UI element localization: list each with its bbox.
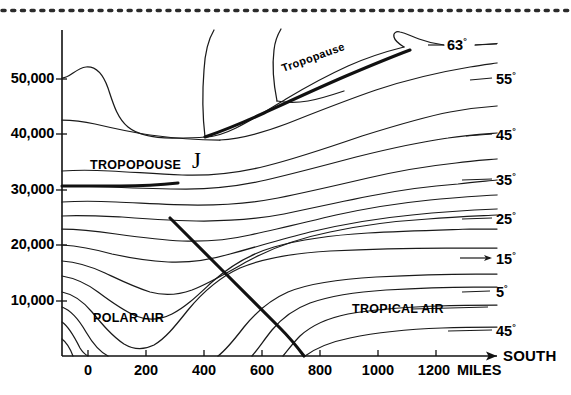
temperature-label-35: 35° xyxy=(496,171,516,188)
isotherm-unlabeled-7 xyxy=(62,339,73,356)
isotherm-5 xyxy=(62,322,88,356)
plot-area xyxy=(0,0,571,395)
temperature-label-55: 55° xyxy=(496,70,516,87)
y-tick-label-50000: 50,000 xyxy=(8,70,54,86)
y-tick-label-20000: 20,000 xyxy=(8,236,54,252)
degree-sign-45-low: ° xyxy=(512,322,516,332)
temp-5-value: 5 xyxy=(496,284,504,300)
temp-35-value: 35 xyxy=(496,172,512,188)
isotherm-63-branch-up xyxy=(203,30,214,137)
x-ticks xyxy=(88,350,436,356)
temperature-label-45-low: 45° xyxy=(496,322,516,339)
tropopause-lower-line xyxy=(62,183,178,186)
degree-sign-45: ° xyxy=(512,126,516,136)
x-tick-label-1000: 1000 xyxy=(356,362,400,378)
temp-63-value: 63 xyxy=(447,37,463,53)
leader-35 xyxy=(462,179,492,180)
leader-25 xyxy=(462,218,492,219)
degree-sign-55: ° xyxy=(512,70,516,80)
x-tick-label-200: 200 xyxy=(128,362,164,378)
isotherm-45-low xyxy=(305,327,497,356)
temp-45-low-value: 45 xyxy=(496,323,512,339)
temperature-label-15: 15° xyxy=(496,250,516,267)
degree-sign-63: ° xyxy=(463,36,467,46)
tropopause-lower-label: TROPOPOUSE xyxy=(90,158,181,172)
leader-55 xyxy=(470,78,492,80)
temperature-label-25: 25° xyxy=(496,210,516,227)
x-tick-label-800: 800 xyxy=(302,362,338,378)
y-tick-label-40000: 40,000 xyxy=(8,125,54,141)
degree-sign-5: ° xyxy=(504,283,508,293)
degree-sign-35: ° xyxy=(512,171,516,181)
degree-sign-15: ° xyxy=(512,250,516,260)
isotherm-5b xyxy=(252,287,497,356)
isotherm-63-left-dome xyxy=(62,67,205,138)
meteorological-cross-section-figure: 50,000 40,000 30,000 20,000 10,000 0 200… xyxy=(0,0,571,395)
isotherm-25 xyxy=(62,215,497,294)
jet-stream-core-symbol: J xyxy=(192,148,201,174)
south-direction-label: SOUTH xyxy=(503,347,557,364)
leader-5 xyxy=(462,291,490,292)
y-tick-label-10000: 10,000 xyxy=(8,292,54,308)
temp-45-value: 45 xyxy=(496,127,512,143)
isotherm-15 xyxy=(62,248,497,349)
x-tick-label-400: 400 xyxy=(186,362,222,378)
temperature-label-45: 45° xyxy=(496,126,516,143)
temp-25-value: 25 xyxy=(496,211,512,227)
x-tick-label-0: 0 xyxy=(73,362,103,378)
x-axis-units-label: MILES xyxy=(457,362,501,378)
temperature-label-5: 5° xyxy=(496,283,508,300)
isotherm-unlabeled-1b xyxy=(220,63,497,140)
x-tick-label-1200: 1200 xyxy=(412,362,456,378)
y-tick-label-30000: 30,000 xyxy=(8,181,54,197)
polar-air-label: POLAR AIR xyxy=(93,311,164,325)
temp-55-value: 55 xyxy=(496,71,512,87)
x-tick-label-600: 600 xyxy=(244,362,280,378)
temp-15-value: 15 xyxy=(496,251,512,267)
temperature-label-63: 63° xyxy=(447,36,467,53)
tropical-air-label: TROPICAL AIR xyxy=(352,302,444,316)
leader-45-low xyxy=(448,330,492,331)
degree-sign-25: ° xyxy=(512,210,516,220)
